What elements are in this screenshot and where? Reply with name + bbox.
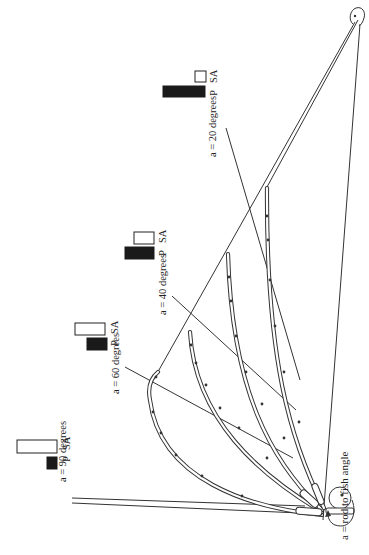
case-label-40: a = 40 degrees	[157, 254, 168, 315]
rods	[149, 188, 324, 515]
bar-sa-label-90: SA	[61, 436, 72, 450]
case-label-90: a = 90 degrees	[57, 421, 68, 482]
diagram-canvas: a = rod to fish angle a = 90 degrees a =…	[0, 0, 369, 555]
bar-p-label-90: P	[61, 456, 72, 462]
p-bar-90	[47, 457, 57, 469]
sa-bar-20	[195, 71, 206, 82]
sa-bar-40	[134, 232, 154, 244]
bar-sa-label-40: SA	[157, 229, 168, 243]
fish	[350, 8, 364, 26]
bar-p-label-40: P	[157, 250, 168, 256]
grip-90	[296, 507, 322, 516]
bar-group-40: P SA	[125, 229, 168, 259]
line-tip-to-fish-20	[267, 20, 358, 187]
bar-sa-label-60: SA	[109, 320, 120, 334]
line-tip-to-fish-90	[155, 22, 355, 377]
p-bar-20	[163, 86, 205, 97]
p-bar-60	[87, 338, 107, 350]
rod-angle-diagram: a = rod to fish angle a = 90 degrees a =…	[0, 0, 369, 555]
sa-bar-90	[17, 440, 57, 453]
p-bar-40	[125, 247, 154, 259]
bar-p-label-20: P	[208, 90, 219, 96]
fish-icon	[350, 8, 364, 26]
angle-definition-label: a = rod to fish angle	[338, 452, 350, 540]
case-label-20: a = 20 degrees	[207, 96, 218, 157]
bar-group-20: P SA	[163, 69, 219, 97]
line-hand-to-fish	[323, 24, 360, 520]
bar-sa-label-20: SA	[208, 69, 219, 83]
sa-bar-60	[75, 323, 105, 335]
bar-p-label-60: P	[109, 340, 120, 346]
